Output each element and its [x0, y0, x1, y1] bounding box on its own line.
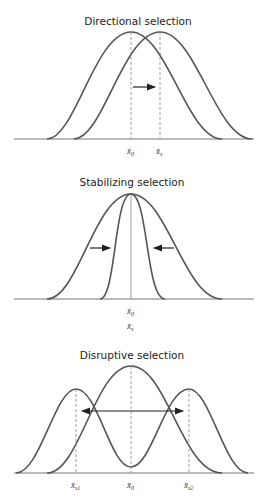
- panel-title: Disruptive selection: [80, 349, 184, 361]
- disruptive-selection-panel: Disruptive selection x̄s1 x̄0 x̄s2: [14, 349, 254, 491]
- label-xs: x̄s: [126, 321, 134, 332]
- label-x0: x̄0: [126, 480, 134, 491]
- label-xs: x̄s: [155, 146, 163, 157]
- original-distribution-curve: [47, 194, 222, 299]
- label-x0: x̄0: [126, 146, 134, 157]
- stabilizing-selection-panel: Stabilizing selection x̄0 x̄s: [14, 176, 254, 332]
- label-x0: x̄0: [126, 306, 134, 317]
- panel-title: Directional selection: [84, 15, 191, 27]
- label-xs2: x̄s2: [183, 480, 193, 491]
- selected-distribution-curve: [74, 32, 252, 139]
- directional-selection-panel: Directional selection x̄0 x̄s: [14, 15, 254, 157]
- selection-diagram: Directional selection x̄0 x̄s Stabilizin…: [0, 0, 277, 496]
- original-distribution-curve: [47, 32, 222, 139]
- panel-title: Stabilizing selection: [80, 176, 185, 188]
- label-xs1: x̄s1: [70, 480, 80, 491]
- original-distribution-curve: [47, 366, 222, 473]
- bimodal-distribution-curve: [16, 389, 248, 473]
